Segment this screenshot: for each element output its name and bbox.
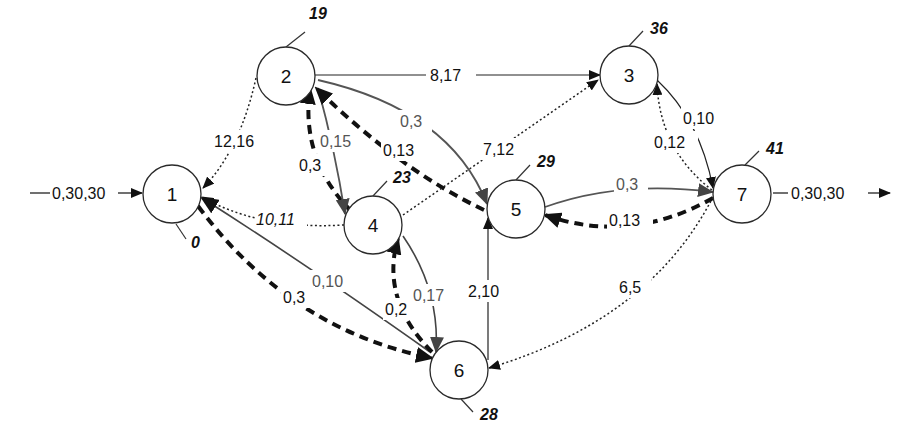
edge-label-2-4: 0,15 (320, 133, 351, 150)
node-4-label: 4 (368, 215, 379, 236)
node-7-potential: 41 (765, 140, 784, 157)
edge-label-7-6: 6,5 (619, 279, 641, 296)
edge-label-3-7: 0,10 (683, 110, 714, 127)
node-2-label: 2 (281, 66, 292, 87)
edge-label-4-3: 7,12 (483, 141, 514, 158)
source-label: 0,30,30 (52, 185, 105, 202)
edge-label-6-1: 0,10 (312, 273, 343, 290)
edge-label-7-5: 0,13 (609, 212, 640, 229)
node-1-potential: 0 (191, 234, 200, 251)
node-3-label: 3 (624, 65, 635, 86)
node-1-label: 1 (167, 184, 178, 205)
node-3[interactable]: 3 36 (600, 20, 668, 104)
node-6-label: 6 (454, 360, 465, 381)
node-5[interactable]: 5 29 (487, 153, 555, 238)
edge-label-4-2: 0,3 (299, 157, 321, 174)
edge-label-5-2: 0,13 (383, 142, 414, 159)
node-7[interactable]: 7 41 (713, 140, 784, 223)
edge-label-2-1: 12,16 (214, 133, 254, 150)
edges (30, 75, 890, 368)
edge-label-1-6: 0,3 (283, 289, 305, 306)
network-flow-diagram: 0,30,30 0,30,30 8,17 12,16 10,11 0,3 0,1… (0, 0, 907, 448)
edge-label-2-5: 0,3 (400, 113, 422, 130)
node-4-potential: 23 (392, 169, 411, 186)
edge-label-6-5: 2,10 (468, 283, 499, 300)
node-3-potential: 36 (650, 20, 668, 37)
node-7-label: 7 (737, 184, 748, 205)
node-2[interactable]: 2 19 (257, 5, 327, 105)
edge-label-5-7: 0,3 (616, 176, 638, 193)
edge-label-7-3: 0,12 (654, 134, 685, 151)
node-5-label: 5 (511, 199, 522, 220)
node-5-potential: 29 (536, 153, 555, 170)
node-2-potential: 19 (309, 5, 327, 22)
edge-label-4-6: 0,17 (413, 287, 444, 304)
edge-label-6-4: 0,2 (385, 301, 407, 318)
edge-label-4-1: 10,11 (256, 211, 295, 228)
edge-label-2-3: 8,17 (430, 67, 461, 84)
sink-label: 0,30,30 (791, 185, 844, 202)
node-1[interactable]: 1 0 (143, 165, 201, 251)
node-4[interactable]: 4 23 (344, 169, 411, 254)
node-6-potential: 28 (479, 406, 498, 423)
